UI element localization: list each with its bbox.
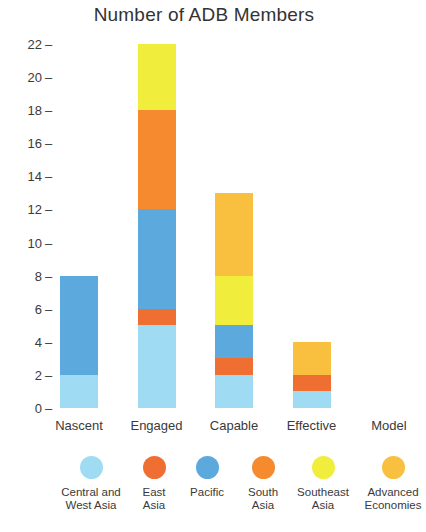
legend-label: South Asia	[248, 486, 278, 512]
y-axis-tick-mark: –	[45, 335, 52, 350]
y-axis-tick-mark: –	[45, 202, 52, 217]
y-axis-tick-mark: –	[45, 103, 52, 118]
bar-engaged	[138, 44, 176, 408]
y-axis-tick-mark: –	[45, 368, 52, 383]
bar-segment	[215, 276, 253, 326]
bar-segment	[138, 44, 176, 110]
y-axis-tick-mark: –	[45, 236, 52, 251]
legend-item-southeast-asia[interactable]: Southeast Asia	[290, 456, 356, 512]
bar-effective	[293, 342, 331, 408]
y-axis-tick: 4–	[0, 335, 52, 349]
y-axis-tick-label: 20	[28, 70, 42, 85]
y-axis-tick: 20–	[0, 70, 52, 84]
y-axis-tick-label: 10	[28, 236, 42, 251]
y-axis-tick: 6–	[0, 302, 52, 316]
y-axis-tick-label: 4	[35, 335, 42, 350]
bar-segment	[138, 209, 176, 308]
y-axis-tick: 22–	[0, 37, 52, 51]
y-axis-tick: 10–	[0, 236, 52, 250]
legend-item-east-asia[interactable]: East Asia	[130, 456, 178, 512]
x-axis-label-nascent: Nascent	[36, 418, 122, 433]
y-axis-tick-label: 6	[35, 302, 42, 317]
bar-segment	[138, 309, 176, 326]
y-axis-tick-mark: –	[45, 70, 52, 85]
bar-segment	[60, 375, 98, 408]
chart-legend: Central and West AsiaEast AsiaPacificSou…	[52, 456, 408, 532]
y-axis-tick-label: 0	[35, 401, 42, 416]
legend-item-central-and-west-asia[interactable]: Central and West Asia	[52, 456, 130, 512]
bar-segment	[215, 193, 253, 276]
bar-segment	[293, 342, 331, 375]
chart-title: Number of ADB Members	[0, 4, 408, 26]
plot-area: 0–2–4–6–8–10–12–14–16–18–20–22– NascentE…	[0, 36, 408, 416]
bar-nascent	[60, 276, 98, 408]
x-axis-label-model: Model	[346, 418, 426, 433]
y-axis-tick: 0–	[0, 401, 52, 415]
y-axis-tick-label: 18	[28, 103, 42, 118]
x-axis-label-capable: Capable	[191, 418, 277, 433]
y-axis-tick-mark: –	[45, 169, 52, 184]
y-axis-tick: 16–	[0, 136, 52, 150]
bar-capable	[215, 193, 253, 408]
y-axis-tick-label: 8	[35, 269, 42, 284]
bar-segment	[138, 110, 176, 209]
x-axis-label-engaged: Engaged	[114, 418, 200, 433]
bar-segment	[60, 276, 98, 375]
y-axis-tick-mark: –	[45, 401, 52, 416]
legend-label: Advanced Economies	[365, 486, 422, 512]
y-axis-tick-mark: –	[45, 37, 52, 52]
y-axis-tick: 8–	[0, 269, 52, 283]
bar-segment	[138, 325, 176, 408]
bar-segment	[215, 325, 253, 358]
legend-label: Southeast Asia	[297, 486, 349, 512]
legend-swatch-icon	[252, 456, 275, 479]
y-axis-tick: 14–	[0, 169, 52, 183]
legend-swatch-icon	[382, 456, 405, 479]
legend-swatch-icon	[196, 456, 219, 479]
y-axis-tick-mark: –	[45, 269, 52, 284]
legend-label: East Asia	[142, 486, 165, 512]
y-axis-tick-label: 22	[28, 37, 42, 52]
y-axis-tick-label: 14	[28, 169, 42, 184]
legend-item-pacific[interactable]: Pacific	[178, 456, 236, 499]
y-axis-tick-label: 16	[28, 136, 42, 151]
y-axis-tick: 18–	[0, 103, 52, 117]
bar-segment	[215, 358, 253, 375]
y-axis-tick-mark: –	[45, 136, 52, 151]
bar-segment	[293, 375, 331, 392]
y-axis-tick-label: 12	[28, 202, 42, 217]
y-axis-tick-label: 2	[35, 368, 42, 383]
bar-segment	[215, 375, 253, 408]
y-axis-tick: 2–	[0, 368, 52, 382]
x-axis-label-effective: Effective	[269, 418, 355, 433]
legend-swatch-icon	[143, 456, 166, 479]
y-axis-tick-mark: –	[45, 302, 52, 317]
legend-swatch-icon	[80, 456, 103, 479]
legend-label: Pacific	[190, 486, 224, 499]
bar-segment	[293, 391, 331, 408]
legend-label: Central and West Asia	[61, 486, 120, 512]
legend-item-advanced-economies[interactable]: Advanced Economies	[356, 456, 426, 512]
legend-swatch-icon	[312, 456, 335, 479]
y-axis-tick: 12–	[0, 202, 52, 216]
legend-item-south-asia[interactable]: South Asia	[236, 456, 290, 512]
